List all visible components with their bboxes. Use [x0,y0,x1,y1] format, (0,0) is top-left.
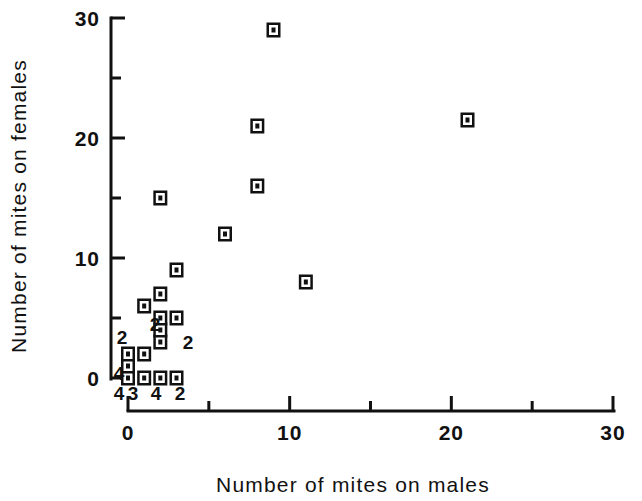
marker-core [158,376,162,381]
data-point [461,113,475,128]
data-point [299,275,313,290]
overplot-count-label: 4 [114,383,125,404]
data-point [137,371,151,386]
data-point [153,191,167,206]
x-tick-label: 20 [439,421,464,444]
data-point [170,263,184,278]
x-tick-label: 0 [122,421,135,444]
overplot-count-label: 2 [175,383,186,404]
marker-core [126,376,130,381]
marker-core [126,364,130,369]
overplot-count-label: 4 [151,383,162,404]
data-point [267,23,281,38]
data-point [250,119,264,134]
y-axis-title: Number of mites on females [7,59,30,353]
x-tick-label: 30 [600,421,625,444]
data-point [137,347,151,362]
y-tick-label: 20 [75,127,100,150]
marker-core [175,268,179,273]
marker-core [142,304,146,309]
data-point [218,227,232,242]
y-tick-label: 10 [75,247,100,270]
marker-core [223,232,227,237]
overplot-count-label: 2 [183,332,194,353]
marker-core [142,376,146,381]
marker-core [142,352,146,357]
x-tick-label: 10 [277,421,302,444]
data-point [250,179,264,194]
marker-core [126,352,130,357]
marker-core [175,316,179,321]
scatter-chart: 0102030 0102030 22244342 Number of mites… [0,0,642,501]
marker-core [158,292,162,297]
overplot-count-label: 2 [150,314,161,335]
chart-canvas: 0102030 0102030 22244342 Number of mites… [0,0,642,501]
marker-core [158,196,162,201]
x-axis-title: Number of mites on males [216,473,490,496]
data-point [121,347,135,362]
overplot-count-label: 2 [117,327,128,348]
marker-core [466,118,470,123]
y-tick-label: 30 [75,7,100,30]
overplot-count-label: 3 [128,383,139,404]
marker-core [255,184,259,189]
overplot-count-label: 4 [114,363,125,384]
marker-core [175,376,179,381]
marker-core [272,28,276,33]
marker-core [158,340,162,345]
marker-core [304,280,308,285]
data-point [153,287,167,302]
y-tick-label: 0 [87,367,100,390]
marker-core [255,124,259,129]
data-point [137,299,151,314]
data-point [170,311,184,326]
